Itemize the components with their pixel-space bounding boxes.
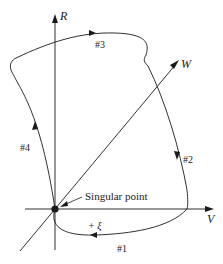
path1-arrow-icon (90, 232, 97, 238)
singular-point-pointer-line (66, 197, 82, 204)
r-axis-label: R (60, 9, 67, 24)
singular-point-dot (51, 205, 58, 212)
path3-label: #3 (95, 39, 105, 50)
trajectory-path (10, 33, 187, 235)
path2-arrow-icon (174, 151, 180, 160)
path1-label: #1 (117, 243, 127, 254)
w-axis-label: W (181, 57, 191, 72)
diagram-canvas: R V W #3 #2 #4 #1 Singular point + ξ (0, 0, 223, 264)
diagram-svg (0, 0, 223, 264)
path4-label: #4 (20, 142, 30, 153)
singular-point-label: Singular point (85, 190, 148, 202)
w-axis-arrowhead-icon (170, 60, 179, 69)
direction-xi-label: + ξ (88, 220, 102, 231)
r-axis-arrowhead-icon (52, 14, 58, 23)
v-axis-label: V (207, 212, 214, 227)
path4-arrow-icon (32, 121, 38, 130)
path2-label: #2 (183, 154, 193, 165)
path3-arrow-icon (89, 30, 96, 36)
